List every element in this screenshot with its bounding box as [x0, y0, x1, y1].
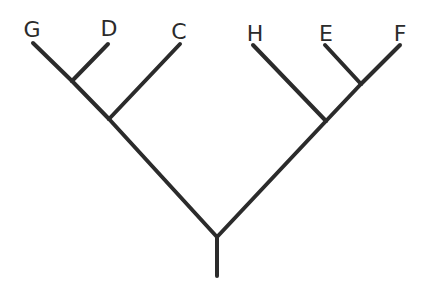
- leaf-labels: G D C H E F: [23, 16, 406, 46]
- leaf-label-f: F: [394, 21, 407, 46]
- cladogram: G D C H E F: [0, 0, 423, 281]
- branch-ef-e: [325, 45, 361, 84]
- leaf-label-e: E: [319, 21, 333, 46]
- branch-gd-d: [72, 44, 108, 81]
- branch-gdc-gd: [72, 81, 109, 119]
- branch-ef-f: [361, 45, 400, 84]
- branch-root-gdc: [109, 119, 217, 237]
- branch-hef-h: [253, 45, 326, 121]
- branches: [33, 43, 400, 276]
- branch-gd-g: [33, 43, 72, 81]
- leaf-label-g: G: [23, 17, 40, 42]
- leaf-label-d: D: [101, 16, 118, 41]
- branch-root-hef: [217, 121, 326, 237]
- leaf-label-h: H: [247, 21, 264, 46]
- branch-hef-ef: [326, 84, 361, 121]
- branch-gdc-c: [109, 44, 180, 119]
- leaf-label-c: C: [171, 19, 186, 44]
